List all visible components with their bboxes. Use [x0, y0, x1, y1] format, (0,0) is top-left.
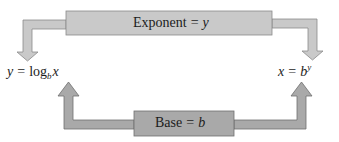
- log-exponent-diagram: Exponent=y Base=b y=logbx x=by: [0, 0, 339, 142]
- log-form-arg: x: [53, 64, 59, 79]
- base-left-arrow: [58, 82, 134, 129]
- base-right-arrow: [234, 82, 312, 129]
- exponent-label: Exponent=y: [133, 15, 209, 31]
- exponent-right-arrow: [272, 19, 323, 60]
- exp-form-equation: x=by: [278, 64, 311, 81]
- log-form-equals: =: [13, 64, 29, 79]
- log-form-subscript: b: [47, 71, 52, 81]
- base-word: Base: [155, 115, 182, 130]
- exp-form-superscript: y: [307, 62, 311, 72]
- exponent-variable: y: [203, 15, 209, 30]
- exponent-equals: =: [187, 15, 203, 30]
- exp-form-equals: =: [284, 64, 300, 79]
- base-label: Base=b: [155, 115, 205, 131]
- exponent-word: Exponent: [133, 15, 187, 30]
- log-form-func: log: [29, 64, 47, 79]
- base-variable: b: [198, 115, 205, 130]
- base-equals: =: [182, 115, 198, 130]
- log-form-equation: y=logbx: [7, 64, 59, 81]
- exponent-left-arrow: [17, 20, 66, 61]
